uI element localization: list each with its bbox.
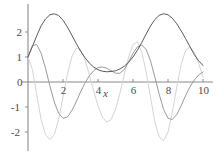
x-tick-label: 2 (61, 85, 67, 96)
x-axis-title: x (103, 88, 108, 99)
chart-figure: 0246810 21-1-2 x (0, 0, 222, 155)
axis-lines (22, 4, 213, 151)
series-line-f-double-prime (28, 42, 203, 141)
x-tick-label: 6 (131, 85, 137, 96)
x-tick-label: 10 (198, 85, 209, 96)
plot-canvas (0, 0, 222, 155)
y-tick-label: -1 (11, 102, 20, 113)
x-tick-label: 8 (166, 85, 172, 96)
x-tick-label: 4 (96, 85, 102, 96)
y-tick-label: 1 (16, 52, 22, 63)
y-tick-label: 2 (16, 27, 22, 38)
series-line-f (28, 14, 203, 72)
x-tick-label: 0 (17, 77, 23, 88)
y-tick-label: -2 (11, 127, 20, 138)
data-series-group (28, 14, 203, 141)
